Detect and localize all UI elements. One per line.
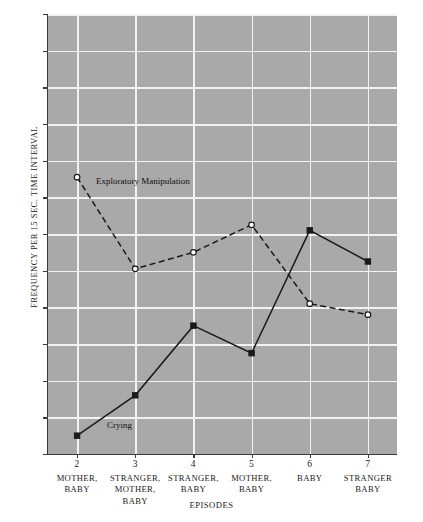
x-category-line: BABY: [209, 484, 295, 496]
gridline-horizontal: [48, 197, 397, 199]
x-tick-mark: [310, 454, 311, 458]
series-label-crying: Crying: [107, 420, 132, 430]
gridline-horizontal: [48, 344, 397, 346]
x-category-line: BABY: [325, 484, 411, 496]
x-axis-line: [47, 454, 397, 455]
x-tick-mark: [77, 454, 78, 458]
gridline-horizontal: [48, 124, 397, 126]
gridline-horizontal: [48, 234, 397, 236]
y-tick-mark: [43, 454, 47, 455]
gridline-horizontal: [48, 87, 397, 89]
y-tick-mark: [43, 271, 47, 272]
gridline-horizontal: [48, 51, 397, 53]
x-category-line: BABY: [92, 496, 178, 508]
plot-area: [48, 14, 397, 454]
gridline-vertical: [252, 14, 254, 454]
x-tick-mark: [135, 454, 136, 458]
y-tick-mark: [43, 381, 47, 382]
gridline-horizontal: [48, 307, 397, 309]
y-tick-mark: [43, 87, 47, 88]
gridline-vertical: [310, 14, 312, 454]
y-tick-mark: [43, 124, 47, 125]
x-tick-label: 7: [325, 459, 411, 471]
y-tick-mark: [43, 234, 47, 235]
chart-root: FREQUENCY PER 15 SEC. TIME INTERVAL EPIS…: [0, 0, 423, 522]
gridline-horizontal: [48, 14, 397, 16]
y-tick-mark: [43, 161, 47, 162]
y-axis-line: [47, 14, 48, 455]
gridline-vertical: [135, 14, 137, 454]
x-tick-mark: [368, 454, 369, 458]
gridline-horizontal: [48, 381, 397, 383]
gridline-vertical: [193, 14, 195, 454]
y-tick-mark: [43, 344, 47, 345]
y-tick-mark: [43, 51, 47, 52]
x-tick-mark: [193, 454, 194, 458]
x-tick-mark: [252, 454, 253, 458]
y-tick-mark: [43, 417, 47, 418]
series-label-exploratory-manipulation: Exploratory Manipulation: [96, 176, 190, 186]
gridline-horizontal: [48, 161, 397, 163]
gridline-vertical: [77, 14, 79, 454]
y-axis-title: FREQUENCY PER 15 SEC. TIME INTERVAL: [29, 97, 39, 337]
gridline-horizontal: [48, 417, 397, 419]
x-axis-group-7: 7STRANGERBABY: [325, 459, 411, 496]
gridline-horizontal: [48, 271, 397, 273]
y-tick-mark: [43, 307, 47, 308]
x-axis-title: EPISODES: [0, 500, 423, 510]
x-category-line: STRANGER: [325, 473, 411, 485]
y-tick-mark: [43, 197, 47, 198]
gridline-vertical: [368, 14, 370, 454]
y-tick-mark: [43, 14, 47, 15]
